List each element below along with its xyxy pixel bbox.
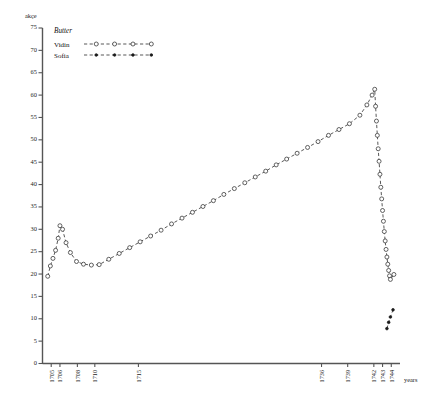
data-point-vidin xyxy=(377,159,381,163)
y-axis-label: akçe xyxy=(25,12,37,19)
y-tick-label: 10 xyxy=(31,314,37,321)
data-point-vidin xyxy=(388,277,392,281)
data-point-vidin xyxy=(383,239,387,243)
x-tick-label: 1744 xyxy=(388,370,395,382)
x-tick-label: 1736 xyxy=(318,370,325,382)
legend-marker xyxy=(113,42,117,46)
y-tick-label: 70 xyxy=(31,46,37,53)
data-point-vidin xyxy=(374,104,378,108)
x-tick-label: 1705 xyxy=(48,370,55,382)
data-point-vidin xyxy=(170,222,174,226)
data-point-vidin xyxy=(378,172,382,176)
legend-sample-vidin xyxy=(84,42,153,46)
data-point-vidin xyxy=(274,163,278,167)
legend-marker xyxy=(95,54,98,57)
data-point-vidin xyxy=(347,122,351,126)
data-point-vidin xyxy=(381,219,385,223)
legend-marker xyxy=(132,54,135,57)
data-point-vidin xyxy=(211,199,215,203)
chart-legend: Butter Vidin Sofia xyxy=(54,27,153,60)
y-tick-label: 20 xyxy=(31,270,37,277)
data-point-vidin xyxy=(201,204,205,208)
data-point-sofia xyxy=(392,308,395,311)
data-point-vidin xyxy=(75,260,79,264)
data-point-vidin xyxy=(222,192,226,196)
data-point-vidin xyxy=(180,216,184,220)
data-point-vidin xyxy=(374,119,378,123)
data-point-vidin xyxy=(316,140,320,144)
data-point-sofia xyxy=(387,321,390,324)
y-tick-label: 35 xyxy=(31,202,37,209)
x-axis-label: years xyxy=(404,376,418,383)
y-tick-label: 0 xyxy=(34,359,37,366)
data-point-vidin xyxy=(56,236,60,240)
data-point-vidin xyxy=(376,147,380,151)
legend-label-sofia: Sofia xyxy=(54,52,70,60)
data-point-vidin xyxy=(358,113,362,117)
y-tick-label: 25 xyxy=(31,247,37,254)
x-axis-ticks: 1705170617081710171517361739174217431744 xyxy=(48,364,395,383)
x-tick-label: 1739 xyxy=(344,370,351,382)
y-tick-label: 75 xyxy=(31,23,37,30)
data-point-vidin xyxy=(51,256,55,260)
series-sofia xyxy=(386,308,395,329)
y-tick-label: 55 xyxy=(31,113,37,120)
data-point-vidin xyxy=(89,263,93,267)
data-point-vidin xyxy=(128,246,132,250)
data-point-vidin xyxy=(285,157,289,161)
data-point-vidin xyxy=(61,227,65,231)
x-tick-label: 1743 xyxy=(379,370,386,382)
series-vidin xyxy=(46,87,396,281)
data-point-vidin xyxy=(337,128,341,132)
y-tick-label: 50 xyxy=(31,135,37,142)
data-point-vidin xyxy=(381,209,385,213)
series-layer xyxy=(46,87,396,330)
x-tick-label: 1742 xyxy=(370,370,377,382)
y-tick-label: 45 xyxy=(31,158,37,165)
x-tick-label: 1706 xyxy=(56,370,63,382)
data-point-vidin xyxy=(253,175,257,179)
data-point-vidin xyxy=(295,151,299,155)
data-point-vidin xyxy=(379,185,383,189)
data-point-vidin xyxy=(306,145,310,149)
data-point-vidin xyxy=(370,93,374,97)
data-point-vidin xyxy=(107,257,111,261)
x-tick-label: 1715 xyxy=(135,370,142,382)
data-point-vidin xyxy=(327,133,331,137)
data-point-vidin xyxy=(386,262,390,266)
data-point-vidin xyxy=(64,241,68,245)
data-point-vidin xyxy=(138,240,142,244)
data-point-vidin xyxy=(382,230,386,234)
butter-price-chart: akçe years 05101520253035404550556065707… xyxy=(0,0,434,414)
data-point-vidin xyxy=(392,272,396,276)
data-point-vidin xyxy=(373,87,377,91)
data-point-vidin xyxy=(68,251,72,255)
data-point-vidin xyxy=(159,228,163,232)
data-point-vidin xyxy=(117,251,121,255)
x-tick-label: 1708 xyxy=(74,370,81,382)
legend-marker xyxy=(150,54,153,57)
data-point-vidin xyxy=(48,264,52,268)
data-point-vidin xyxy=(365,103,369,107)
legend-title: Butter xyxy=(54,27,72,35)
data-point-vidin xyxy=(54,248,58,252)
y-axis-ticks: 051015202530354045505560657075 xyxy=(31,23,43,366)
data-point-vidin xyxy=(46,274,50,278)
y-tick-label: 60 xyxy=(31,91,37,98)
data-point-vidin xyxy=(385,255,389,259)
x-tick-label: 1710 xyxy=(91,370,98,382)
data-point-vidin xyxy=(81,262,85,266)
y-tick-label: 40 xyxy=(31,180,37,187)
data-point-sofia xyxy=(386,327,389,330)
y-tick-label: 30 xyxy=(31,225,37,232)
data-point-vidin xyxy=(243,181,247,185)
legend-sample-sofia xyxy=(84,54,153,57)
y-tick-label: 5 xyxy=(34,337,37,344)
series-line-vidin xyxy=(48,89,394,279)
data-point-vidin xyxy=(380,197,384,201)
legend-marker xyxy=(94,42,98,46)
legend-marker xyxy=(113,54,116,57)
legend-marker xyxy=(131,42,135,46)
data-point-vidin xyxy=(97,263,101,267)
data-point-vidin xyxy=(375,133,379,137)
